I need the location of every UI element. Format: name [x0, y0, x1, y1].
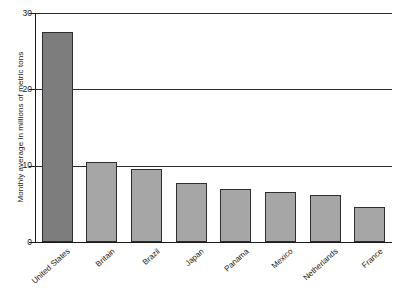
x-axis-label: United States	[21, 246, 73, 294]
bar	[265, 192, 296, 242]
gridline-30	[35, 13, 392, 14]
bar	[354, 207, 385, 242]
x-axis-label-text: United States	[30, 246, 73, 286]
x-axis-label-text: Mexico	[270, 246, 296, 271]
x-axis-label-text: Brazil	[140, 246, 162, 268]
y-axis-title: Monthly average in millions of metric to…	[14, 12, 28, 242]
x-axis-label-text: Britain	[93, 246, 117, 269]
bar	[220, 189, 251, 242]
bar	[86, 162, 117, 242]
x-axis-label-text: Panama	[222, 246, 252, 274]
bar-chart: Monthly average in millions of metric to…	[0, 0, 393, 299]
x-axis-label: Netherlands	[288, 246, 340, 294]
gridline-20	[35, 89, 392, 90]
plot-area	[35, 13, 392, 242]
x-axis-label: Mexico	[244, 246, 296, 294]
x-axis-label: France	[333, 246, 385, 294]
bar	[131, 169, 162, 242]
x-axis-label: Britain	[65, 246, 117, 294]
bar	[310, 195, 341, 242]
x-axis-label: Brazil	[110, 246, 162, 294]
bar	[42, 32, 73, 242]
x-axis-label-text: Netherlands	[301, 246, 340, 283]
bar	[176, 183, 207, 242]
x-axis-label-text: France	[359, 246, 385, 271]
x-axis-label-text: Japan	[183, 246, 207, 269]
x-axis-line	[35, 242, 392, 243]
